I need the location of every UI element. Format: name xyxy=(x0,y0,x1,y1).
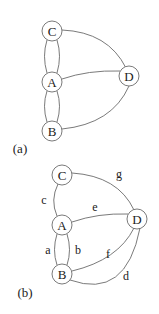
svg-text:B: B xyxy=(58,267,67,282)
edge-a-c-d xyxy=(62,30,126,68)
svg-text:A: A xyxy=(57,218,67,233)
node-a-c: C xyxy=(42,21,62,41)
edge-a-c-a-left xyxy=(45,40,48,73)
svg-text:D: D xyxy=(124,69,133,84)
node-b-d: D xyxy=(127,209,147,229)
node-b-c: C xyxy=(52,165,72,185)
figure-b: C A D B c g e a b f d (b) xyxy=(17,165,147,300)
svg-text:A: A xyxy=(47,75,57,90)
svg-text:C: C xyxy=(48,24,57,39)
edge-label-e: e xyxy=(92,200,97,214)
svg-text:B: B xyxy=(48,124,57,139)
node-a-a: A xyxy=(42,72,62,92)
edge-label-b: b xyxy=(75,243,81,257)
edge-b-g xyxy=(72,173,134,210)
edge-label-f: f xyxy=(106,247,110,261)
edge-a-a-b-right xyxy=(57,91,60,122)
edge-label-c: c xyxy=(41,193,46,207)
caption-b: (b) xyxy=(17,285,32,300)
svg-text:D: D xyxy=(132,212,141,227)
node-a-b: B xyxy=(42,121,62,141)
edge-b-e xyxy=(72,214,128,222)
caption-a: (a) xyxy=(13,141,27,156)
figure-a: C A D B (a) xyxy=(13,21,139,156)
edge-b-c xyxy=(54,184,58,216)
edge-label-g: g xyxy=(116,167,122,181)
graph-diagrams: C A D B (a) C A xyxy=(0,0,159,314)
edge-b-a-left xyxy=(55,234,58,265)
node-b-b: B xyxy=(52,264,72,284)
node-a-d: D xyxy=(119,66,139,86)
node-b-a: A xyxy=(52,215,72,235)
edge-a-a-b-left xyxy=(45,91,48,122)
edge-a-b-d xyxy=(62,86,129,129)
edge-b-f xyxy=(72,228,134,271)
svg-text:C: C xyxy=(58,168,67,183)
edge-a-c-a-right xyxy=(57,40,60,73)
edge-a-a-d xyxy=(62,71,120,79)
edge-label-d: d xyxy=(123,269,129,283)
edge-b-b-right xyxy=(67,234,70,265)
edge-label-a: a xyxy=(45,243,51,257)
